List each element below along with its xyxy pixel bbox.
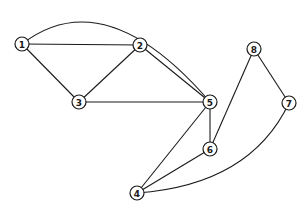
edge-2-3 xyxy=(79,45,140,102)
node-label: 2 xyxy=(137,41,143,51)
nodes-layer: 12345678 xyxy=(15,37,296,200)
node-1: 1 xyxy=(15,37,29,51)
node-8: 8 xyxy=(247,42,261,56)
node-4: 4 xyxy=(130,186,144,200)
node-label: 3 xyxy=(76,98,82,108)
node-label: 4 xyxy=(134,189,140,199)
node-3: 3 xyxy=(72,95,86,109)
node-2: 2 xyxy=(133,38,147,52)
edge-1-2 xyxy=(22,44,140,45)
node-7: 7 xyxy=(282,96,296,110)
edge-8-7 xyxy=(254,49,289,103)
node-label: 5 xyxy=(207,98,213,108)
node-label: 1 xyxy=(19,40,25,50)
edge-1-3 xyxy=(22,44,79,102)
node-5: 5 xyxy=(203,95,217,109)
node-label: 7 xyxy=(286,99,292,109)
node-label: 8 xyxy=(251,45,257,55)
edge-5-4 xyxy=(137,102,210,193)
node-6: 6 xyxy=(203,142,217,156)
edge-1-5 xyxy=(22,22,210,102)
edge-6-4 xyxy=(137,149,210,193)
node-label: 6 xyxy=(207,145,213,155)
graph-diagram: 12345678 xyxy=(0,0,307,209)
edge-2-5 xyxy=(140,45,210,102)
graph-svg: 12345678 xyxy=(0,0,307,209)
